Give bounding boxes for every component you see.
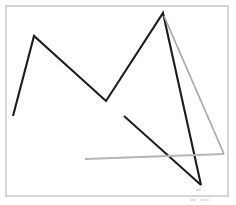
scan-speck-lower-right	[201, 199, 209, 201]
canvas-background	[0, 0, 236, 205]
scan-speck-lower-left	[190, 199, 196, 201]
scan-speck-upper	[196, 189, 201, 191]
line-drawing-canvas	[0, 0, 236, 205]
figure-root	[0, 0, 236, 205]
